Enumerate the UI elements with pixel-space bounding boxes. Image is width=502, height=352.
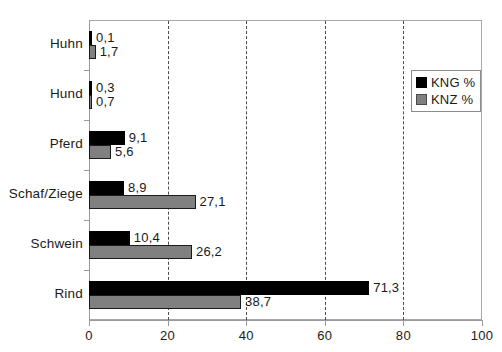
bar-hund-knz — [89, 95, 92, 109]
x-tick-0 — [89, 321, 90, 326]
bar-schaf-ziege-kng — [89, 181, 124, 195]
gridline-20 — [168, 21, 169, 320]
legend-label-knz: KNZ % — [431, 92, 473, 107]
x-tick-label-0: 0 — [85, 328, 93, 343]
gridline-80 — [403, 21, 404, 320]
y-tick-2 — [84, 120, 89, 121]
bar-value-huhn-knz: 1,7 — [100, 44, 119, 59]
bar-schwein-knz — [89, 245, 192, 259]
bar-rind-knz — [89, 295, 241, 309]
category-label-huhn: Huhn — [0, 36, 83, 51]
x-tick-100 — [482, 321, 483, 326]
black-square-swatch-icon — [416, 77, 427, 88]
x-axis-line — [89, 320, 483, 321]
plot-area — [89, 20, 482, 320]
gray-square-swatch-icon — [416, 94, 427, 105]
bar-value-hund-kng: 0,3 — [96, 80, 115, 95]
y-tick-5 — [84, 270, 89, 271]
x-tick-60 — [325, 321, 326, 326]
x-tick-label-100: 100 — [471, 328, 494, 343]
x-tick-40 — [246, 321, 247, 326]
bar-huhn-kng — [89, 31, 92, 45]
gridline-60 — [325, 21, 326, 320]
bar-value-schwein-kng: 10,4 — [134, 230, 160, 245]
category-label-rind: Rind — [0, 286, 83, 301]
legend: KNG % KNZ % — [411, 70, 481, 112]
bar-chart: 020406080100 HuhnHundPferdSchaf/ZiegeSch… — [0, 0, 502, 352]
category-label-hund: Hund — [0, 86, 83, 101]
category-label-pferd: Pferd — [0, 136, 83, 151]
bar-rind-kng — [89, 281, 369, 295]
y-tick-3 — [84, 170, 89, 171]
bar-value-schwein-knz: 26,2 — [196, 244, 222, 259]
y-axis-line — [89, 20, 90, 321]
y-tick-4 — [84, 220, 89, 221]
legend-item-kng: KNG % — [416, 74, 475, 91]
x-tick-80 — [403, 321, 404, 326]
bar-value-rind-knz: 38,7 — [245, 294, 271, 309]
legend-item-knz: KNZ % — [416, 91, 475, 108]
category-label-schaf-ziege: Schaf/Ziege — [0, 186, 83, 201]
x-tick-label-20: 20 — [160, 328, 175, 343]
x-tick-20 — [168, 321, 169, 326]
bar-value-huhn-kng: 0,1 — [96, 30, 115, 45]
bar-value-rind-kng: 71,3 — [373, 280, 399, 295]
bar-huhn-knz — [89, 45, 96, 59]
bar-hund-kng — [89, 81, 92, 95]
y-tick-1 — [84, 70, 89, 71]
bar-value-schaf-ziege-knz: 27,1 — [200, 194, 226, 209]
bar-value-pferd-kng: 9,1 — [129, 130, 148, 145]
bar-value-hund-knz: 0,7 — [96, 94, 115, 109]
bar-schwein-kng — [89, 231, 130, 245]
category-label-schwein: Schwein — [0, 236, 83, 251]
x-tick-label-80: 80 — [396, 328, 411, 343]
bar-pferd-kng — [89, 131, 125, 145]
x-tick-label-60: 60 — [317, 328, 332, 343]
bar-value-schaf-ziege-kng: 8,9 — [128, 180, 147, 195]
gridline-40 — [246, 21, 247, 320]
x-tick-label-40: 40 — [239, 328, 254, 343]
bar-schaf-ziege-knz — [89, 195, 196, 209]
bar-pferd-knz — [89, 145, 111, 159]
legend-label-kng: KNG % — [431, 75, 475, 90]
bar-value-pferd-knz: 5,6 — [115, 144, 134, 159]
